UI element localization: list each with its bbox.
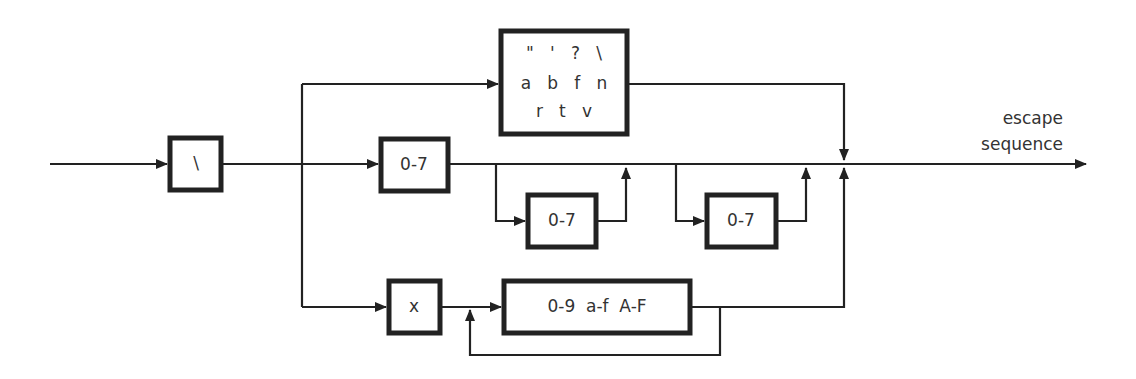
hex-digits-label: 0-9 a-f A-F [547, 296, 646, 316]
octal-label-1: 0-7 [400, 154, 428, 174]
simple-escapes-box: " ' ? \ a b f n r t v [501, 31, 627, 134]
output-label-line-2: sequence [981, 134, 1063, 154]
octal-optional-2-in [496, 164, 525, 221]
hex-prefix-box: x [389, 281, 440, 333]
octal-box-2: 0-7 [528, 195, 596, 247]
octal-optional-3-in [676, 164, 704, 221]
simple-escapes-row-1: " ' ? \ [526, 43, 602, 63]
octal-box-1: 0-7 [381, 139, 448, 191]
backslash-label: \ [193, 153, 199, 173]
syntax-diagram: \ " ' ? \ a b f n r t v 0-7 0-7 0-7 x 0-… [0, 0, 1136, 379]
hex-prefix-label: x [409, 296, 419, 316]
octal-label-3: 0-7 [727, 210, 755, 230]
octal-optional-3-out [776, 168, 806, 221]
simple-escapes-row-3: r t v [536, 101, 592, 121]
hex-digits-box: 0-9 a-f A-F [504, 281, 690, 333]
octal-optional-2-out [596, 168, 626, 221]
simple-escapes-return [628, 84, 844, 160]
output-label-line-1: escape [1003, 108, 1063, 128]
backslash-box: \ [170, 138, 221, 190]
octal-label-2: 0-7 [548, 210, 576, 230]
octal-box-3: 0-7 [707, 195, 776, 247]
simple-escapes-row-2: a b f n [521, 73, 608, 93]
